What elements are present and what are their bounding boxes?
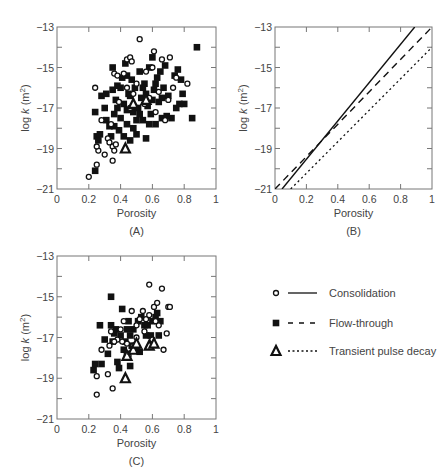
transient-pulse-marker bbox=[129, 99, 138, 108]
consolidation-marker bbox=[156, 89, 161, 94]
consolidation-marker bbox=[115, 73, 120, 78]
line-flow-through bbox=[275, 27, 432, 189]
consolidation-marker bbox=[105, 372, 110, 377]
consolidation-marker bbox=[144, 69, 149, 74]
series-flow-through bbox=[92, 44, 200, 174]
y-tick-label: −15 bbox=[254, 62, 272, 74]
consolidation-marker bbox=[159, 286, 164, 291]
flow-through-marker bbox=[154, 310, 161, 317]
flow-through-marker bbox=[105, 351, 112, 358]
flow-through-marker bbox=[97, 322, 104, 329]
y-tick-label: −15 bbox=[36, 291, 54, 303]
consolidation-marker bbox=[112, 148, 117, 153]
panel-c-scatter: 00.20.40.60.81−13−15−17−19−21Porosity(C)… bbox=[18, 250, 219, 467]
x-tick-label: 0.6 bbox=[362, 193, 377, 205]
transient-pulse-marker bbox=[121, 373, 130, 382]
flow-through-marker bbox=[179, 91, 186, 98]
flow-through-marker bbox=[95, 137, 102, 144]
legend: ConsolidationFlow-throughTransient pulse… bbox=[272, 287, 437, 357]
flow-through-marker bbox=[92, 167, 99, 174]
consolidation-marker bbox=[129, 59, 134, 64]
flow-through-marker bbox=[146, 121, 153, 128]
consolidation-marker bbox=[99, 347, 104, 352]
x-tick-label: 0.8 bbox=[393, 193, 408, 205]
flow-through-marker bbox=[92, 109, 99, 116]
consolidation-marker bbox=[99, 118, 104, 123]
flow-through-marker bbox=[117, 84, 124, 91]
y-tick-label: −17 bbox=[254, 102, 272, 114]
consolidation-marker bbox=[134, 323, 139, 328]
consolidation-marker bbox=[94, 144, 99, 149]
legend-label: Flow-through bbox=[329, 317, 393, 329]
figure-canvas: 00.20.40.60.81−13−15−17−19−21Porosity(A)… bbox=[0, 0, 447, 470]
x-axis-title: Porosity bbox=[117, 437, 157, 449]
consolidation-marker bbox=[147, 313, 152, 318]
flow-through-marker bbox=[159, 95, 166, 102]
consolidation-marker bbox=[134, 81, 139, 86]
flow-through-marker bbox=[133, 131, 140, 138]
panel-b-lines: 00.20.40.60.81−13−15−17−19−21Porosity(B)… bbox=[236, 21, 435, 237]
x-tick-label: 1 bbox=[429, 193, 435, 205]
x-tick-label: 1 bbox=[213, 193, 219, 205]
y-tick-label: −13 bbox=[36, 250, 54, 262]
flow-through-marker bbox=[175, 66, 182, 73]
x-tick-label: 1 bbox=[213, 423, 219, 435]
x-tick-label: 0.6 bbox=[145, 423, 160, 435]
consolidation-marker bbox=[153, 110, 158, 115]
x-tick-label: 0.2 bbox=[81, 423, 96, 435]
consolidation-marker bbox=[110, 158, 115, 163]
flow-through-marker bbox=[103, 91, 110, 98]
flow-through-marker bbox=[152, 80, 159, 87]
flow-through-marker bbox=[136, 68, 143, 75]
consolidation-marker bbox=[150, 65, 155, 70]
legend-item-consolidation: Consolidation bbox=[274, 287, 396, 299]
y-tick-label: −13 bbox=[36, 21, 54, 33]
consolidation-marker bbox=[166, 97, 171, 102]
consolidation-marker bbox=[161, 347, 166, 352]
flow-through-marker bbox=[92, 361, 99, 368]
flow-through-marker bbox=[140, 117, 147, 124]
consolidation-marker bbox=[167, 55, 172, 60]
flow-through-marker bbox=[127, 332, 134, 339]
flow-through-marker bbox=[136, 111, 143, 118]
y-tick-label: −21 bbox=[254, 183, 272, 195]
consolidation-marker bbox=[155, 300, 160, 305]
line-consolidation bbox=[282, 27, 415, 189]
consolidation-marker bbox=[121, 71, 126, 76]
consolidation-marker bbox=[142, 329, 147, 334]
flow-through-marker bbox=[189, 115, 196, 122]
consolidation-marker bbox=[153, 319, 158, 324]
consolidation-marker bbox=[110, 386, 115, 391]
legend-item-transient-pulse-decay: Transient pulse decay bbox=[272, 345, 437, 357]
consolidation-marker bbox=[140, 309, 145, 314]
consolidation-marker bbox=[117, 99, 122, 104]
flow-through-marker bbox=[194, 44, 201, 51]
flow-through-marker bbox=[116, 365, 123, 372]
x-axis-title: Porosity bbox=[334, 207, 374, 219]
flow-through-marker bbox=[109, 64, 116, 71]
consolidation-marker bbox=[112, 339, 117, 344]
flow-through-marker bbox=[155, 332, 162, 339]
consolidation-marker bbox=[113, 142, 118, 147]
y-tick-label: −19 bbox=[254, 143, 272, 155]
flow-through-marker bbox=[101, 105, 108, 112]
consolidation-marker bbox=[109, 329, 114, 334]
flow-through-marker bbox=[108, 293, 115, 300]
y-tick-label: −15 bbox=[36, 62, 54, 74]
plot-area bbox=[86, 37, 200, 180]
x-tick-label: 0 bbox=[54, 423, 60, 435]
x-tick-label: 0.8 bbox=[177, 423, 192, 435]
flow-through-marker bbox=[114, 359, 121, 366]
flow-through-marker bbox=[168, 115, 175, 122]
transient-pulse-marker bbox=[132, 339, 141, 348]
consolidation-marker bbox=[120, 339, 125, 344]
transient-pulse-marker bbox=[272, 346, 281, 355]
panel-caption: (C) bbox=[129, 455, 144, 467]
x-tick-label: 0.2 bbox=[81, 193, 96, 205]
y-axis-title: log k (m2) bbox=[18, 84, 31, 131]
consolidation-marker bbox=[167, 304, 172, 309]
panel-a-scatter: 00.20.40.60.81−13−15−17−19−21Porosity(A)… bbox=[18, 21, 219, 237]
y-tick-label: −19 bbox=[36, 372, 54, 384]
consolidation-marker bbox=[121, 319, 126, 324]
flow-through-marker bbox=[140, 84, 147, 91]
